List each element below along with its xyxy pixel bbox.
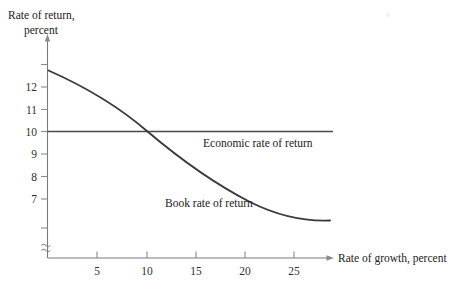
y-axis-break-icon-lower	[42, 249, 51, 252]
y-axis-title-line2: percent	[24, 24, 59, 37]
y-tick-label-9: 9	[31, 148, 37, 160]
y-tick-label-7: 7	[31, 193, 37, 205]
x-tick-label-5: 5	[94, 265, 100, 277]
paper-speck	[386, 12, 390, 17]
x-axis-title: Rate of growth, percent	[338, 252, 447, 265]
y-axis-break-icon-upper	[42, 244, 51, 247]
x-tick-label-15: 15	[190, 265, 202, 277]
book-rate-label: Book rate of return	[165, 197, 253, 209]
y-tick-label-8: 8	[31, 171, 37, 183]
x-tick-label-20: 20	[239, 265, 251, 277]
x-tick-label-25: 25	[288, 265, 300, 277]
x-tick-label-10: 10	[141, 265, 153, 277]
economic-rate-label: Economic rate of return	[203, 137, 313, 149]
x-axis-arrow-icon	[327, 255, 335, 260]
figure-canvas: 12 11 10 9 8 7 5 10 15 20 25 Rate of ret…	[0, 0, 468, 294]
y-tick-label-12: 12	[26, 81, 38, 93]
y-tick-label-11: 11	[26, 104, 37, 116]
y-axis-title-line1: Rate of return,	[8, 9, 75, 22]
rate-of-return-chart: 12 11 10 9 8 7 5 10 15 20 25 Rate of ret…	[0, 0, 468, 294]
y-tick-label-10: 10	[26, 126, 38, 138]
